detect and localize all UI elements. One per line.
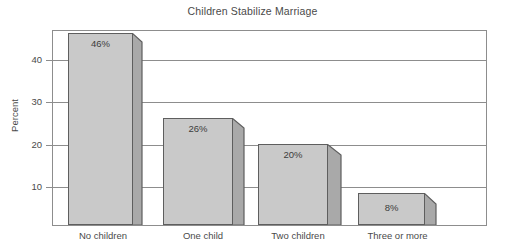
bar-chart: Children Stabilize Marriage Percent 40 3… bbox=[0, 0, 505, 251]
bar-side-face-two-children bbox=[327, 144, 342, 225]
y-tick-mark-40 bbox=[46, 60, 52, 61]
y-axis-title: Percent bbox=[9, 86, 20, 146]
bar-side-face-three-or-more bbox=[424, 193, 437, 225]
bar-two-children[interactable]: 20% bbox=[258, 144, 328, 225]
bar-value-three-or-more: 8% bbox=[358, 202, 425, 213]
y-tick-label-30: 30 bbox=[8, 96, 42, 107]
bar-no-children[interactable]: 46% bbox=[68, 33, 133, 225]
x-tick-label-one-child: One child bbox=[148, 230, 258, 241]
bar-front-face-no-children bbox=[68, 33, 133, 225]
x-tick-label-three-or-more: Three or more bbox=[340, 230, 455, 241]
x-tick-label-two-children: Two children bbox=[243, 230, 353, 241]
bar-side-face-no-children bbox=[132, 33, 143, 225]
bar-one-child[interactable]: 26% bbox=[163, 118, 233, 225]
y-tick-label-10: 10 bbox=[8, 181, 42, 192]
bar-front-face-one-child bbox=[163, 118, 233, 225]
bar-value-two-children: 20% bbox=[258, 149, 328, 160]
bar-three-or-more[interactable]: 8% bbox=[358, 193, 425, 225]
y-tick-mark-30 bbox=[46, 102, 52, 103]
y-tick-label-20: 20 bbox=[8, 139, 42, 150]
bar-value-one-child: 26% bbox=[163, 123, 233, 134]
y-tick-label-40: 40 bbox=[8, 54, 42, 65]
x-tick-label-no-children: No children bbox=[48, 230, 158, 241]
bar-value-no-children: 46% bbox=[68, 38, 133, 49]
bar-side-face-one-child bbox=[232, 118, 245, 225]
y-tick-mark-20 bbox=[46, 145, 52, 146]
chart-title: Children Stabilize Marriage bbox=[0, 5, 505, 17]
y-tick-mark-10 bbox=[46, 187, 52, 188]
